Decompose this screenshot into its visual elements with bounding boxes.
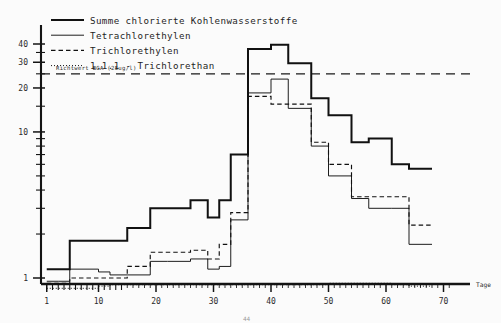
y-axis-ticks	[33, 44, 45, 278]
y-tick-label-10: 10	[18, 128, 28, 137]
series-line-2	[47, 96, 432, 283]
x-tick-label-40: 40	[266, 297, 276, 306]
legend-label-3: 1.1.1 - Trichlorethan	[90, 60, 215, 71]
y-tick-label-1: 1	[23, 274, 28, 283]
y-tick-label-20: 20	[18, 84, 28, 93]
line-chart-canvas: 110203040 110203040506070 Richtwert BGA …	[0, 0, 501, 323]
data-series-group	[47, 45, 432, 289]
x-axis-tick-labels: 110203040506070	[44, 297, 448, 306]
x-tick-label-1: 1	[44, 297, 49, 306]
x-tick-label-30: 30	[209, 297, 219, 306]
page-number: 44	[243, 315, 250, 322]
x-axis-title: Tage	[476, 281, 491, 289]
x-tick-label-70: 70	[439, 297, 449, 306]
series-line-0	[47, 45, 432, 269]
chart-figure: 110203040 110203040506070 Richtwert BGA …	[0, 0, 501, 323]
legend-label-2: Trichlorethylen	[90, 45, 179, 56]
legend-label-0: Summe chlorierte Kohlenwasserstoffe	[90, 15, 298, 26]
x-axis-ticks	[47, 284, 444, 292]
x-tick-label-50: 50	[324, 297, 334, 306]
legend-label-1: Tetrachlorethylen	[90, 30, 191, 41]
y-tick-label-40: 40	[18, 40, 28, 49]
x-tick-label-10: 10	[94, 297, 104, 306]
y-tick-label-30: 30	[18, 58, 28, 67]
chart-legend: Summe chlorierte KohlenwasserstoffeTetra…	[51, 15, 298, 72]
series-line-1	[47, 79, 432, 281]
y-axis-tick-labels: 110203040	[18, 40, 28, 283]
x-tick-label-60: 60	[381, 297, 391, 306]
x-tick-label-20: 20	[151, 297, 161, 306]
